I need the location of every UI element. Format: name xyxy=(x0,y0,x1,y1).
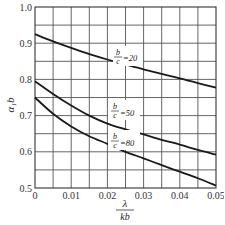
curve-label-20: b c =20 xyxy=(113,46,143,66)
svg-text:c: c xyxy=(113,141,117,150)
x-tick-label: 0.01 xyxy=(62,190,80,201)
y-tick-label: 1.0 xyxy=(20,2,33,13)
curve-label-80: b c =80 xyxy=(108,130,140,150)
x-axis-label: λ kb xyxy=(116,197,134,222)
svg-text:c: c xyxy=(113,111,117,120)
x-tick-label: 0.04 xyxy=(171,190,189,201)
y-tick-label: 0.6 xyxy=(20,146,33,157)
grid-lines xyxy=(35,7,216,188)
curve-label-50: b c =50 xyxy=(108,100,140,120)
svg-text:=80: =80 xyxy=(120,138,135,148)
x-tick-label: 0 xyxy=(33,190,38,201)
y-tick-label: 0.5 xyxy=(20,183,33,194)
y-tick-label: 0.7 xyxy=(20,110,33,121)
svg-text:=50: =50 xyxy=(120,108,135,118)
x-tick-label: 0.05 xyxy=(207,190,224,201)
y-tick-label: 0.9 xyxy=(20,38,33,49)
x-axis-label-denominator: kb xyxy=(120,211,129,222)
svg-text:=20: =20 xyxy=(123,53,138,63)
chart: 0.50.60.70.80.91.0 00.010.020.030.040.05… xyxy=(0,0,224,225)
y-tick-label: 0.8 xyxy=(20,74,33,85)
svg-text:b: b xyxy=(113,132,117,141)
x-tick-label: 0.03 xyxy=(135,190,153,201)
x-tick-label: 0.02 xyxy=(99,190,117,201)
svg-text:b: b xyxy=(116,48,120,57)
y-axis-label: α₁b xyxy=(4,97,16,113)
svg-text:c: c xyxy=(116,57,120,66)
svg-text:b: b xyxy=(113,102,117,111)
y-axis-ticks: 0.50.60.70.80.91.0 xyxy=(20,2,33,194)
x-axis-label-numerator: λ xyxy=(122,197,128,209)
x-axis-ticks: 00.010.020.030.040.05 xyxy=(33,190,225,201)
